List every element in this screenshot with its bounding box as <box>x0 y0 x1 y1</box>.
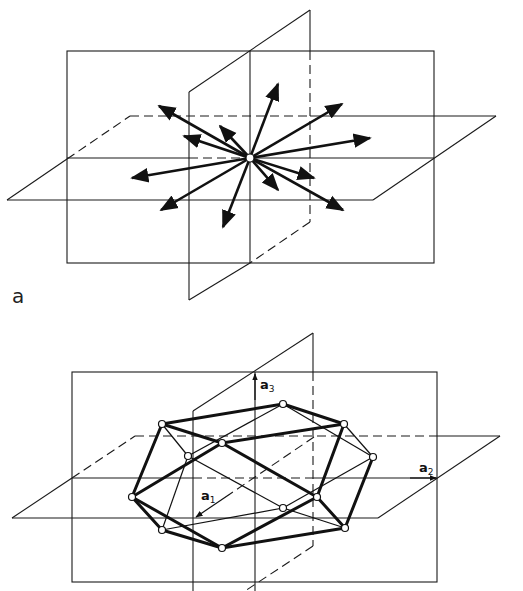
vertex <box>159 421 166 428</box>
a2-label: a2 <box>419 460 434 477</box>
vertex <box>342 525 349 532</box>
bottom-figure: a3 a2 a1 <box>12 333 500 591</box>
vector-arrow <box>223 158 250 227</box>
polyhedron-bold-edges <box>132 404 373 548</box>
vertex <box>219 545 226 552</box>
vertex <box>280 401 287 408</box>
top-figure <box>7 10 496 300</box>
diagram-canvas: a3 a2 a1 <box>0 0 523 591</box>
vertex <box>219 440 226 447</box>
vertex <box>185 453 192 460</box>
vertex <box>314 494 321 501</box>
vertex <box>159 527 166 534</box>
center-point <box>246 154 254 162</box>
vertex <box>280 505 287 512</box>
vertex <box>129 494 136 501</box>
a3-label: a3 <box>260 377 275 394</box>
vertex <box>370 454 377 461</box>
vertex <box>341 421 348 428</box>
vector-arrow <box>159 106 250 158</box>
panel-a-label: a <box>12 284 24 308</box>
vector-arrow <box>250 158 343 210</box>
vector-arrow <box>250 84 278 158</box>
a1-label: a1 <box>201 488 216 505</box>
